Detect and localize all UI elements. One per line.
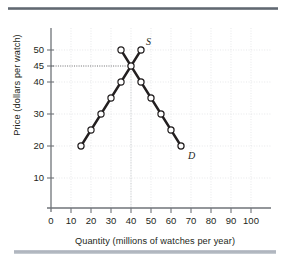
y-tick-label-20: 20 [22,141,44,151]
data-point [118,47,124,53]
y-tick-label-30: 30 [22,109,44,119]
y-tick-label-10: 10 [22,173,44,183]
x-tick-label-40: 40 [121,216,141,226]
data-point [138,79,144,85]
y-tick-label-40: 40 [22,77,44,87]
x-tick-label-50: 50 [141,216,161,226]
x-tick-label-60: 60 [161,216,181,226]
x-tick-marks [71,208,251,213]
data-point [88,127,94,133]
data-point [178,143,184,149]
data-point [148,95,154,101]
y-axis-title: Price (dollars per watch) [12,10,22,160]
data-point [118,79,124,85]
x-tick-label-80: 80 [201,216,221,226]
demand-curve-label: D [188,150,195,161]
data-point [98,111,104,117]
plot-area [51,28,271,208]
y-tick-label-50: 50 [22,45,44,55]
x-axis-title: Quantity (millions of watches per year) [40,236,270,246]
data-point [138,47,144,53]
data-point [108,95,114,101]
x-tick-label-30: 30 [101,216,121,226]
x-tick-label-100: 100 [241,216,261,226]
x-tick-label-20: 20 [81,216,101,226]
x-tick-label-10: 10 [61,216,81,226]
bottom-rule-bar [14,250,276,254]
supply-curve-label: S [146,36,151,47]
y-tick-label-45: 45 [22,61,44,71]
equilibrium-point-marker [128,63,134,69]
x-tick-label-90: 90 [221,216,241,226]
x-tick-label-70: 70 [181,216,201,226]
data-point [168,127,174,133]
data-point [78,143,84,149]
x-tick-label-0: 0 [41,216,61,226]
data-point [158,111,164,117]
